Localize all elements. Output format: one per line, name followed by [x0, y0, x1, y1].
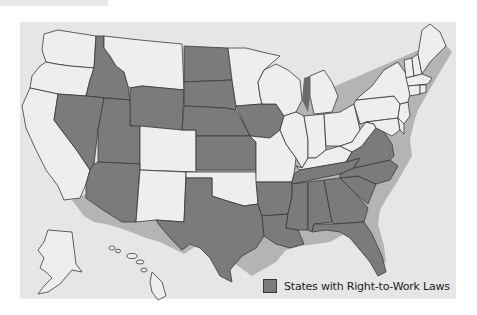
- state-hawaii[interactable]: [109, 246, 166, 300]
- state-arkansas[interactable]: [256, 182, 292, 216]
- state-south-dakota[interactable]: [184, 80, 236, 110]
- state-kansas[interactable]: [196, 136, 256, 170]
- legend-label: States with Right-to-Work Laws: [284, 280, 450, 293]
- state-michigan[interactable]: [310, 70, 338, 114]
- map-legend: States with Right-to-Work Laws: [263, 279, 450, 293]
- state-rhode-island[interactable]: [420, 85, 426, 94]
- state-connecticut[interactable]: [408, 85, 420, 96]
- state-alaska[interactable]: [38, 230, 82, 294]
- state-new-mexico[interactable]: [136, 170, 186, 222]
- state-wyoming[interactable]: [130, 86, 184, 130]
- us-map: [0, 0, 477, 315]
- legend-swatch-right-to-work: [263, 279, 277, 293]
- state-north-dakota[interactable]: [184, 46, 232, 82]
- state-washington[interactable]: [42, 30, 96, 68]
- state-colorado[interactable]: [140, 126, 196, 172]
